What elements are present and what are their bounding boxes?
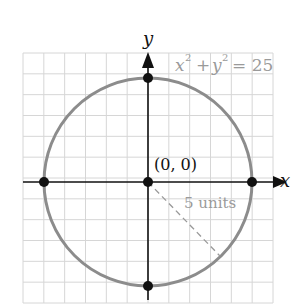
svg-text:2: 2 <box>222 52 228 63</box>
circle-graph: y x x 2 + y 2 = 25 (0, 0) 5 units <box>0 0 302 308</box>
svg-text:x: x <box>175 55 185 75</box>
svg-text:2: 2 <box>185 52 191 63</box>
svg-text:+: + <box>196 55 210 75</box>
svg-text:y: y <box>211 55 222 75</box>
origin-label: (0, 0) <box>154 155 197 174</box>
x-axis-label: x <box>280 170 290 191</box>
point-left <box>39 177 49 187</box>
point-origin <box>143 177 153 187</box>
point-right <box>247 177 257 187</box>
point-bottom <box>143 281 153 291</box>
radius-label: 5 units <box>184 194 236 212</box>
point-top <box>143 73 153 83</box>
svg-text:= 25: = 25 <box>232 55 273 75</box>
y-axis-label: y <box>142 28 154 49</box>
y-axis-arrow-icon <box>142 52 154 68</box>
